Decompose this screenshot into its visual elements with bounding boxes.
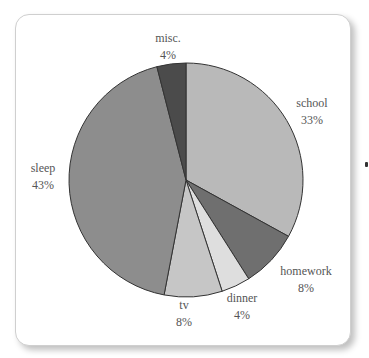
label-dinner-name: dinner xyxy=(227,290,258,307)
label-homework: homework 8% xyxy=(280,263,331,297)
label-homework-name: homework xyxy=(280,263,331,280)
label-sleep-pct: 43% xyxy=(31,177,56,194)
label-school-pct: 33% xyxy=(296,112,327,129)
label-school: school 33% xyxy=(296,95,327,129)
label-sleep-name: sleep xyxy=(31,160,56,177)
label-misc: misc. 4% xyxy=(155,30,181,64)
label-tv: tv 8% xyxy=(176,297,192,331)
edge-artifact xyxy=(365,162,368,167)
label-tv-name: tv xyxy=(176,297,192,314)
label-sleep: sleep 43% xyxy=(31,160,56,194)
label-homework-pct: 8% xyxy=(280,280,331,297)
label-misc-pct: 4% xyxy=(155,47,181,64)
label-misc-name: misc. xyxy=(155,30,181,47)
label-dinner: dinner 4% xyxy=(227,290,258,324)
label-school-name: school xyxy=(296,95,327,112)
label-tv-pct: 8% xyxy=(176,314,192,331)
label-dinner-pct: 4% xyxy=(227,307,258,324)
